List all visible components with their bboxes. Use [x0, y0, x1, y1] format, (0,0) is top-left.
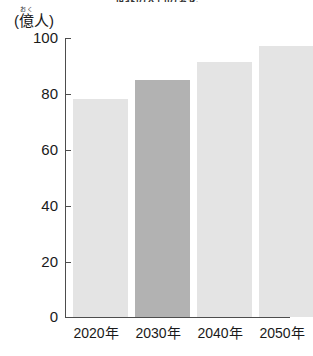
bar-chart-figure: 世界の人口の変化 (億おく人) 100 80 60 40 20 0 2020年 …: [0, 0, 313, 356]
bar-2030: [135, 80, 190, 317]
bar-2050: [259, 46, 313, 317]
bar-2040: [197, 62, 252, 317]
y-axis-unit-ruby: 億おく: [19, 12, 34, 29]
x-axis-line: [65, 317, 290, 318]
y-axis-unit-furigana: おく: [19, 6, 34, 12]
chart-title: 世界の人口の変化: [0, 0, 313, 2]
y-axis-unit-label: (億おく人): [14, 6, 54, 28]
bar-2020: [73, 99, 128, 317]
x-axis-label-2020: 2020年: [64, 326, 128, 340]
y-tick-mark-0: [65, 317, 71, 318]
y-axis-unit-suffix: 人): [34, 12, 54, 29]
y-tick-label-80: 80: [8, 86, 58, 101]
x-axis-label-2030: 2030年: [126, 326, 190, 340]
x-axis-label-2040: 2040年: [188, 326, 252, 340]
y-tick-label-20: 20: [8, 254, 58, 269]
y-tick-label-100: 100: [8, 30, 58, 45]
y-tick-label-40: 40: [8, 198, 58, 213]
y-axis-unit-kanji: 億: [19, 12, 34, 29]
y-tick-label-0: 0: [8, 309, 58, 324]
x-axis-label-2050: 2050年: [250, 326, 313, 340]
plot-area: [65, 38, 289, 317]
y-tick-label-60: 60: [8, 142, 58, 157]
